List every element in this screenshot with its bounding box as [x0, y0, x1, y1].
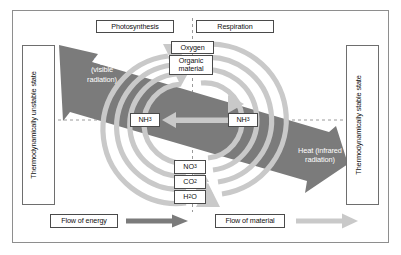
legend-flow-of-energy: Flow of energy: [50, 214, 118, 228]
unstable-state-label: Thermodynamically unstable state: [28, 71, 37, 178]
nh3-right-formula: NH: [237, 116, 247, 124]
organic-material-line2: material: [179, 65, 204, 73]
compound-organic-material: Organic material: [169, 55, 213, 75]
nh3-left-subscript: 3: [149, 117, 152, 122]
no3-formula: NO: [183, 163, 194, 171]
compound-h2o: H2O: [174, 190, 206, 204]
compound-no3: NO3: [174, 160, 206, 174]
no3-subscript: 3: [194, 164, 197, 169]
light-label-line2: (visible: [73, 65, 131, 74]
co2-formula: CO: [183, 178, 194, 186]
material-arrow-icon: [296, 214, 358, 229]
nh3-left-formula: NH: [139, 116, 149, 124]
diagram-root: Photosynthesis Respiration Oxygen Organi…: [0, 0, 401, 255]
compound-nh3-right: NH3: [228, 113, 258, 127]
stable-state-panel: Thermodynamically stable state: [346, 45, 379, 205]
h2o-formula-tail: O: [191, 193, 197, 201]
co2-subscript: 2: [194, 179, 197, 184]
light-label: Light (visible radiation): [73, 56, 131, 84]
compound-co2: CO2: [174, 175, 206, 189]
header-respiration: Respiration: [196, 20, 274, 33]
compound-nh3-left: NH3: [130, 113, 160, 127]
header-photosynthesis: Photosynthesis: [96, 20, 174, 33]
light-label-line1: Light: [73, 56, 131, 65]
energy-arrow-icon: [126, 215, 188, 228]
legend-flow-of-material: Flow of material: [215, 214, 285, 228]
compound-oxygen: Oxygen: [171, 41, 214, 54]
unstable-state-panel: Thermodynamically unstable state: [22, 45, 55, 205]
stable-state-label: Thermodynamically stable state: [353, 75, 362, 174]
light-label-line3: radiation): [73, 75, 131, 84]
nh3-right-subscript: 3: [247, 117, 250, 122]
